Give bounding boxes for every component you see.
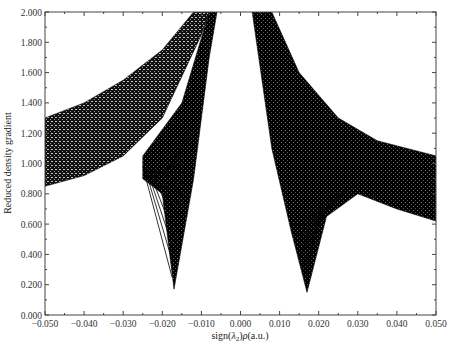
plot-area <box>45 12 436 292</box>
x-tick-label: −0.020 <box>149 319 176 329</box>
y-tick-label: 0.400 <box>21 250 43 260</box>
y-tick-label: 1.000 <box>21 159 43 169</box>
right-band <box>252 12 436 292</box>
x-tick-label: −0.030 <box>110 319 137 329</box>
y-axis-title: Reduced density gradient <box>2 112 13 214</box>
y-tick-label: 2.000 <box>21 8 43 18</box>
x-tick-label: 0.050 <box>425 319 447 329</box>
y-tick-label: 1.600 <box>21 68 43 78</box>
x-axis-title: sign(λ2)ρ(a.u.) <box>211 330 268 343</box>
x-tick-label: 0.040 <box>386 319 408 329</box>
x-tick-label: 0.020 <box>308 319 330 329</box>
scatter-chart: −0.050−0.040−0.030−0.020−0.0100.0000.010… <box>0 0 449 346</box>
y-tick-label: 0.600 <box>21 220 43 230</box>
x-tick-label: −0.040 <box>71 319 98 329</box>
x-tick-label: 0.010 <box>269 319 291 329</box>
x-tick-label: 0.030 <box>347 319 369 329</box>
y-tick-label: 1.400 <box>21 98 43 108</box>
y-tick-label: 0.000 <box>21 311 43 321</box>
y-tick-label: 1.200 <box>21 129 43 139</box>
y-tick-label: 1.800 <box>21 38 43 48</box>
x-tick-label: 0.000 <box>230 319 252 329</box>
x-tick-label: −0.050 <box>32 319 59 329</box>
y-tick-label: 0.800 <box>21 189 43 199</box>
x-tick-label: −0.010 <box>188 319 215 329</box>
y-tick-label: 0.200 <box>21 280 43 290</box>
